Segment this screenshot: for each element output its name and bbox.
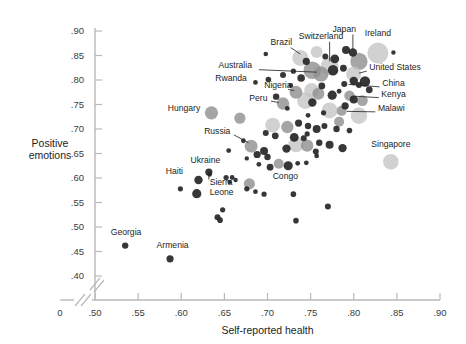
point-label: SierraLeone: [210, 177, 234, 197]
data-bubble: [313, 149, 319, 155]
data-bubble: [295, 161, 300, 166]
point-label: Georgia: [111, 227, 142, 237]
data-bubble: [306, 113, 311, 118]
data-bubble: [316, 140, 322, 146]
data-bubble: [285, 106, 290, 111]
y-tick-label: .70: [71, 123, 84, 134]
y-tick-label: .65: [71, 148, 84, 159]
point-label: Singapore: [371, 139, 410, 149]
y-tick-label: .85: [71, 50, 84, 61]
data-bubble: [295, 120, 302, 127]
data-bubble: [367, 43, 388, 64]
x-tick-label: .80: [347, 307, 360, 318]
data-bubble: [264, 154, 270, 160]
data-bubble: [274, 159, 284, 169]
x-tick-label: 0: [57, 307, 62, 318]
y-tick-label: .45: [71, 246, 84, 257]
data-bubble: [311, 46, 323, 58]
x-tick-label: .60: [175, 307, 188, 318]
data-bubble: [305, 123, 311, 129]
data-bubble: [347, 128, 353, 134]
data-bubble: [301, 139, 313, 151]
data-bubble: [217, 217, 223, 223]
point-label: Russia: [204, 126, 230, 136]
point-label: Congo: [273, 171, 299, 181]
data-bubble: [391, 50, 395, 54]
data-bubble: [305, 131, 310, 136]
point-label: Nigeria: [264, 80, 291, 90]
data-bubble: [304, 160, 309, 165]
data-bubble: [290, 133, 299, 142]
data-bubble: [253, 80, 258, 85]
data-bubble: [122, 242, 128, 248]
data-bubble: [342, 102, 349, 109]
x-tick-label: .70: [261, 307, 274, 318]
data-bubble: [328, 91, 337, 100]
data-bubble: [282, 144, 290, 152]
data-bubble: [293, 218, 299, 224]
data-bubble: [333, 126, 339, 132]
data-bubble: [308, 98, 316, 106]
point-label: Ireland: [365, 28, 391, 38]
data-bubble: [340, 65, 347, 72]
point-label: China: [382, 78, 405, 88]
data-bubble: [245, 156, 249, 160]
data-bubble: [166, 255, 173, 262]
data-bubble: [281, 121, 293, 133]
point-label: Brazil: [271, 37, 293, 47]
data-bubble: [291, 191, 297, 197]
data-bubble: [313, 125, 321, 133]
data-bubble: [256, 162, 261, 167]
data-bubble: [342, 46, 350, 54]
data-bubble: [265, 118, 280, 133]
data-bubble: [226, 148, 231, 153]
point-label: Armenia: [157, 240, 189, 250]
data-bubble: [244, 186, 249, 191]
point-label: Haiti: [166, 166, 183, 176]
data-bubble: [321, 110, 326, 115]
data-bubble: [314, 154, 319, 159]
data-bubble: [205, 106, 218, 119]
point-label: Rwanda: [215, 73, 247, 83]
point-label: Malawi: [378, 103, 405, 113]
data-bubble: [273, 93, 279, 99]
x-axis-break: [75, 294, 91, 306]
data-bubble: [338, 144, 346, 152]
data-bubble: [253, 189, 258, 194]
data-bubble: [337, 89, 342, 94]
data-bubble: [254, 151, 261, 158]
data-bubble: [261, 192, 266, 197]
x-tick-label: .50: [88, 307, 101, 318]
data-bubble: [233, 178, 237, 182]
data-bubble: [321, 123, 327, 129]
data-bubble: [263, 130, 269, 136]
data-bubble: [325, 203, 331, 209]
x-axis-title: Self-reported health: [221, 324, 313, 336]
data-bubble: [267, 164, 274, 171]
y-tick-label: .80: [71, 74, 84, 85]
point-label: Australia: [219, 60, 253, 70]
point-label: Hungary: [168, 103, 201, 113]
data-bubble: [272, 132, 279, 139]
data-bubble: [350, 96, 358, 104]
bubbles-layer: [122, 43, 399, 263]
data-bubble: [383, 154, 399, 170]
y-tick-label: .75: [71, 99, 84, 110]
data-bubble: [334, 117, 344, 127]
y-tick-label: .40: [71, 270, 84, 281]
data-bubble: [318, 82, 325, 89]
x-tick-label: .90: [433, 307, 446, 318]
y-axis-title: Positiveemotions: [29, 137, 72, 161]
data-bubble: [326, 141, 334, 149]
data-bubble: [366, 86, 373, 93]
y-tick-label: .90: [71, 25, 84, 36]
data-bubble: [208, 172, 212, 176]
plot-area: .90.85.80.75.70.65.60.55.50.45.400.50.55…: [0, 0, 466, 344]
data-bubble: [312, 88, 324, 100]
data-bubble: [322, 53, 328, 59]
data-bubble: [303, 58, 310, 65]
data-bubble: [330, 55, 339, 64]
data-bubble: [341, 81, 347, 87]
data-bubble: [301, 135, 307, 141]
x-tick-label: .65: [218, 307, 231, 318]
